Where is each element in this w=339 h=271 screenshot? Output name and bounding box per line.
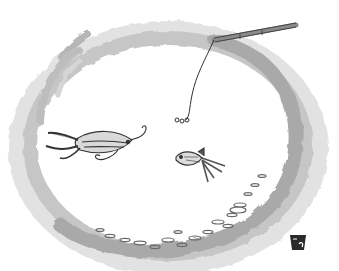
artist-signature [290, 235, 306, 250]
goldfish [176, 148, 225, 182]
squid [46, 126, 146, 160]
fishing-line [186, 40, 214, 120]
cartoon-illustration [0, 0, 339, 271]
